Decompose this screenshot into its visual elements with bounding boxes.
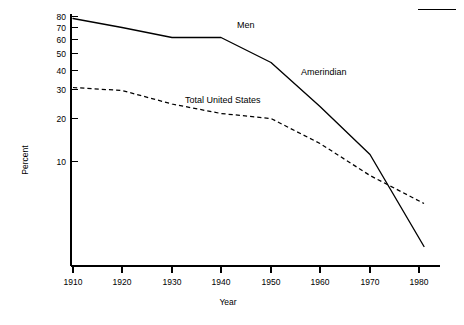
x-tick-label-1980: 1980: [410, 277, 429, 287]
y-tick-label-60: 60: [57, 35, 67, 45]
y-tick-label-30: 30: [57, 85, 67, 95]
x-tick-label-1950: 1950: [262, 277, 281, 287]
y-axis-title: Percent: [20, 145, 30, 175]
y-tick-label-70: 70: [57, 23, 67, 33]
x-axis-tick-labels: 1910 1920 1930 1940 1950 1960 1970 1980: [64, 277, 429, 287]
y-tick-label-40: 40: [57, 66, 67, 76]
x-tick-label-1970: 1970: [361, 277, 380, 287]
x-tick-label-1960: 1960: [311, 277, 330, 287]
x-axis-title: Year: [219, 297, 236, 307]
y-axis-tick-labels: 80 70 60 50 40 30 20 10: [57, 12, 67, 167]
x-tick-label-1930: 1930: [163, 277, 182, 287]
x-tick-label-1940: 1940: [212, 277, 231, 287]
y-axis-ticks: [71, 17, 78, 162]
x-axis-ticks: [73, 266, 419, 273]
y-tick-label-10: 10: [57, 157, 67, 167]
series-annotation-amerindian: Amerindian: [301, 67, 347, 77]
chart-figure: 80 70 60 50 40 30 20 10 1910 1920 1930 1…: [0, 0, 464, 325]
line-chart-canvas: 80 70 60 50 40 30 20 10 1910 1920 1930 1…: [0, 0, 464, 325]
x-tick-label-1920: 1920: [113, 277, 132, 287]
series-annotation-total-united-states: Total United States: [185, 95, 261, 105]
y-tick-label-80: 80: [57, 12, 67, 22]
y-tick-label-50: 50: [57, 49, 67, 59]
x-tick-label-1910: 1910: [64, 277, 83, 287]
series-annotation-men: Men: [237, 20, 255, 30]
y-tick-label-20: 20: [57, 114, 67, 124]
series-line-amerindian: [73, 19, 424, 247]
